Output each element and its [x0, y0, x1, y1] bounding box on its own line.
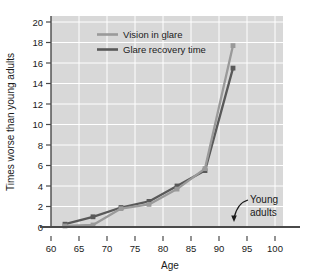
xtick-label-85: 85: [186, 243, 197, 254]
data-point-marker: [231, 66, 236, 71]
ytick-label-4: 4: [38, 181, 43, 192]
xtick-label-70: 70: [102, 243, 113, 254]
chart-figure: 20 18 16 14 12 10 8 6 4 2 0 60 65: [0, 0, 310, 275]
annotation-label-line2: adults: [250, 207, 277, 218]
y-axis-title: Times worse than young adults: [5, 53, 16, 191]
xtick-label-90: 90: [214, 243, 225, 254]
xtick-label-100: 100: [267, 243, 283, 254]
xtick-label-65: 65: [74, 243, 85, 254]
ytick-label-6: 6: [38, 160, 43, 171]
data-point-marker: [119, 206, 124, 211]
annotation-label-line1: Young: [250, 194, 278, 205]
x-axis-tick-labels: 60 65 70 75 80 85 90 95 100: [46, 243, 283, 254]
ytick-label-14: 14: [32, 78, 43, 89]
data-point-marker: [175, 187, 180, 192]
xtick-label-60: 60: [46, 243, 57, 254]
data-point-marker: [147, 202, 152, 207]
ytick-label-10: 10: [32, 119, 43, 130]
ytick-label-8: 8: [38, 140, 43, 151]
ytick-label-18: 18: [32, 37, 43, 48]
data-point-marker: [91, 214, 96, 219]
xtick-label-95: 95: [242, 243, 253, 254]
legend-label-glare-recovery-time: Glare recovery time: [123, 44, 206, 55]
ytick-label-12: 12: [32, 99, 43, 110]
legend-label-vision-in-glare: Vision in glare: [123, 29, 183, 40]
line-chart: 20 18 16 14 12 10 8 6 4 2 0 60 65: [0, 0, 310, 275]
xtick-label-75: 75: [130, 243, 141, 254]
x-axis-title: Age: [161, 260, 179, 271]
data-point-marker: [231, 43, 236, 48]
data-point-marker: [203, 166, 208, 171]
ytick-label-20: 20: [32, 17, 43, 28]
ytick-label-2: 2: [38, 201, 43, 212]
xtick-label-80: 80: [158, 243, 169, 254]
ytick-label-16: 16: [32, 58, 43, 69]
